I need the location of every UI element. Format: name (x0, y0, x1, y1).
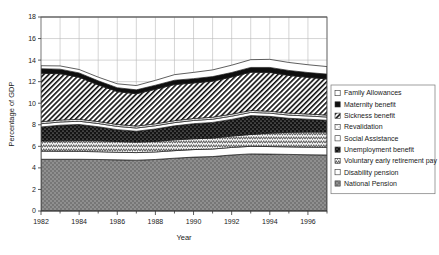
legend: Family AllowancesMaternity benefitSickne… (331, 85, 437, 194)
x-tick-label: 1992 (224, 218, 240, 225)
y-tick-label: 8 (32, 121, 36, 128)
legend-item[interactable]: Disability pension (335, 169, 399, 177)
y-tick-label: 2 (32, 186, 36, 193)
legend-swatch (335, 102, 340, 107)
y-tick-label: 12 (28, 78, 36, 85)
y-tick-label: 16 (28, 35, 36, 42)
legend-label: Social Assistance (344, 135, 399, 142)
chart-canvas: 024681012141618 198219841986198819901992… (0, 0, 439, 255)
stacked-areas (41, 59, 327, 211)
legend-swatch (335, 158, 340, 163)
x-tick-label: 1994 (262, 218, 278, 225)
y-tick-label: 6 (32, 143, 36, 150)
legend-swatch (335, 170, 340, 175)
legend-label: Revalidation (344, 123, 383, 130)
legend-item[interactable]: Family Allowances (335, 89, 402, 97)
x-tick-label: 1982 (33, 218, 49, 225)
legend-swatch (335, 124, 340, 129)
legend-swatch (335, 147, 340, 152)
x-tick-label: 1984 (71, 218, 87, 225)
legend-label: National Pension (344, 180, 397, 187)
y-tick-label: 14 (28, 57, 36, 64)
y-tick-label: 18 (28, 13, 36, 20)
x-tick-label: 1988 (148, 218, 164, 225)
area-series (41, 154, 327, 211)
legend-item[interactable]: National Pension (335, 180, 397, 187)
y-tick-label: 4 (32, 164, 36, 171)
x-tick-label: 1986 (109, 218, 125, 225)
legend-swatch (335, 136, 340, 141)
x-tick-label: 1996 (300, 218, 316, 225)
legend-label: Unemployment benefit (344, 146, 414, 154)
legend-label: Sickness benefit (344, 112, 395, 119)
legend-label: Disability pension (344, 169, 399, 177)
legend-swatch (335, 181, 340, 186)
legend-label: Family Allowances (344, 89, 402, 97)
legend-item[interactable]: Voluntary early retirement pay (335, 157, 437, 165)
stacked-area-chart: 024681012141618 198219841986198819901992… (0, 0, 439, 255)
legend-item[interactable]: Maternity benefit (335, 101, 396, 109)
y-tick-label: 10 (28, 100, 36, 107)
legend-swatch (335, 91, 340, 96)
x-axis-title: Year (176, 233, 192, 242)
legend-label: Maternity benefit (344, 101, 396, 109)
legend-label: Voluntary early retirement pay (344, 157, 437, 165)
y-axis-title: Percentage of GDP (7, 81, 16, 146)
legend-item[interactable]: Social Assistance (335, 135, 399, 142)
x-tick-label: 1990 (186, 218, 202, 225)
y-tick-label: 0 (32, 207, 36, 214)
legend-swatch (335, 113, 340, 118)
legend-item[interactable]: Sickness benefit (335, 112, 395, 119)
legend-item[interactable]: Unemployment benefit (335, 146, 414, 154)
